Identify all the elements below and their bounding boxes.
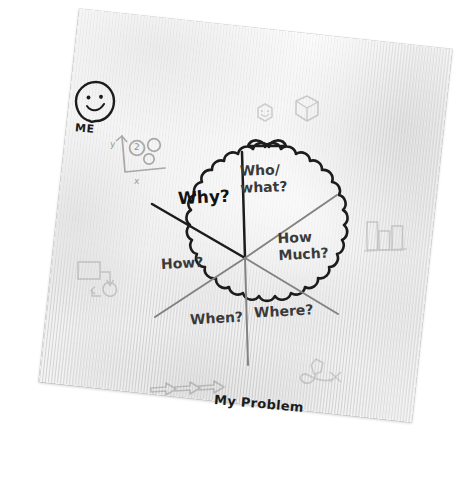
pie-divider-vertical-bottom: [245, 258, 248, 365]
who-what-line2: what?: [240, 178, 288, 196]
bar-chart-icon: [365, 222, 406, 251]
who-what-line1: Who/: [239, 161, 287, 179]
smiley-hex-icon: [258, 104, 272, 121]
axis-x-label: x: [134, 176, 140, 186]
flowchart-icon: [78, 262, 116, 296]
pie-slice-label-how: How?: [161, 254, 204, 272]
me-label: ME: [74, 121, 95, 136]
pie-slice-label-how-much: How Much?: [277, 228, 329, 264]
pie-slice-label-why: Why?: [178, 186, 231, 209]
pie-slice-label-who-what: Who/ what?: [239, 161, 287, 196]
napkin-sketch-canvas: ME y x 2 Why? Who/ what? How Much? Where…: [0, 0, 468, 483]
cube-icon: [296, 96, 318, 121]
bubble-value-label: 2: [134, 142, 140, 152]
smiley-face-icon: [76, 82, 114, 122]
axis-y-label: y: [110, 139, 116, 149]
timeline-curve-icon: [301, 359, 341, 383]
pie-divider-upper-left: [152, 204, 245, 258]
how-much-line2: Much?: [278, 244, 329, 263]
pie-slice-label-when: When?: [190, 309, 244, 328]
bubble-chart-icon: [116, 136, 165, 172]
arrows-right-icon: [151, 381, 224, 395]
sketch-svg: [0, 0, 468, 483]
pie-slice-label-where: Where?: [254, 301, 314, 320]
ink-layer: ME y x 2 Why? Who/ what? How Much? Where…: [0, 0, 468, 483]
